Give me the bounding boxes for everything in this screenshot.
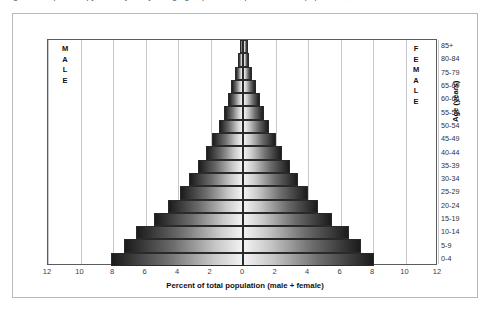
bar-male — [224, 106, 244, 119]
gridline — [438, 40, 439, 264]
x-tick-label: 10 — [393, 267, 417, 276]
x-tick-label: 6 — [133, 267, 157, 276]
bar-row — [48, 80, 436, 93]
female-label: FEMALE — [410, 44, 422, 107]
bar-female — [243, 80, 256, 93]
x-tick-label: 2 — [198, 267, 222, 276]
y-tick-label: 35-39 — [441, 161, 481, 170]
bar-male — [180, 186, 243, 199]
bar-male — [235, 67, 243, 80]
x-tick-label: 6 — [328, 267, 352, 276]
y-tick-label: 55-59 — [441, 108, 481, 117]
bar-row — [48, 120, 436, 133]
bar-male — [206, 146, 243, 159]
bar-female — [243, 173, 298, 186]
caption-letter: A — [59, 55, 71, 66]
pyramid-bars — [48, 40, 436, 264]
y-tick-label: 75-79 — [441, 68, 481, 77]
bar-row — [48, 239, 436, 252]
bar-male — [111, 253, 243, 266]
bar-row — [48, 133, 436, 146]
bar-female — [243, 67, 252, 80]
x-tick-label: 4 — [165, 267, 189, 276]
x-tick-label: 12 — [425, 267, 449, 276]
y-tick-label: 85+ — [441, 41, 481, 50]
bar-row — [48, 213, 436, 226]
bar-male — [189, 173, 243, 186]
bar-row — [48, 53, 436, 66]
bar-female — [243, 226, 349, 239]
x-tick-label: 4 — [295, 267, 319, 276]
caption-letter: L — [59, 65, 71, 76]
x-tick-label: 12 — [35, 267, 59, 276]
bar-female — [243, 106, 264, 119]
caption-letter: L — [410, 86, 422, 97]
bar-male — [168, 200, 243, 213]
bar-male — [228, 93, 243, 106]
y-tick-label: 80-84 — [441, 54, 481, 63]
bar-female — [243, 253, 374, 266]
y-tick-label: 10-14 — [441, 227, 481, 236]
x-tick-label: 8 — [100, 267, 124, 276]
bar-male — [198, 160, 244, 173]
bar-female — [243, 200, 318, 213]
bar-female — [243, 133, 276, 146]
bar-female — [243, 239, 361, 252]
bar-row — [48, 253, 436, 266]
bar-female — [243, 120, 269, 133]
bar-male — [231, 80, 243, 93]
bar-row — [48, 106, 436, 119]
caption-letter: E — [410, 55, 422, 66]
bar-row — [48, 146, 436, 159]
top-caption: Figure 1. Population pyramid by five-yea… — [6, 0, 486, 3]
y-tick-label: 60-64 — [441, 94, 481, 103]
x-tick-label: 2 — [263, 267, 287, 276]
plot-area — [47, 39, 437, 265]
y-tick-label: 25-29 — [441, 187, 481, 196]
bar-row — [48, 186, 436, 199]
y-tick-label: 50-54 — [441, 121, 481, 130]
x-tick-label: 0 — [230, 267, 254, 276]
bar-row — [48, 93, 436, 106]
bar-row — [48, 226, 436, 239]
bar-row — [48, 160, 436, 173]
x-axis-title: Percent of total population (male + fema… — [13, 281, 477, 290]
bar-row — [48, 67, 436, 80]
bar-female — [243, 213, 332, 226]
y-tick-label: 45-49 — [441, 134, 481, 143]
bar-male — [124, 239, 243, 252]
bar-male — [154, 213, 243, 226]
caption-letter: F — [410, 44, 422, 55]
y-tick-label: 20-24 — [441, 201, 481, 210]
caption-letter: E — [59, 76, 71, 87]
bar-male — [219, 120, 243, 133]
y-tick-label: 15-19 — [441, 214, 481, 223]
bar-male — [136, 226, 243, 239]
bar-female — [243, 40, 248, 53]
bar-female — [243, 186, 308, 199]
x-tick-label: 10 — [68, 267, 92, 276]
y-tick-label: 0-4 — [441, 254, 481, 263]
bar-row — [48, 173, 436, 186]
y-tick-label: 5-9 — [441, 241, 481, 250]
x-tick-label: 8 — [360, 267, 384, 276]
caption-letter: E — [410, 97, 422, 108]
bar-female — [243, 160, 290, 173]
y-tick-label: 30-34 — [441, 174, 481, 183]
caption-letter: A — [410, 76, 422, 87]
y-tick-label: 40-44 — [441, 148, 481, 157]
caption-letter: M — [410, 65, 422, 76]
bar-female — [243, 146, 282, 159]
bar-row — [48, 40, 436, 53]
bar-female — [243, 93, 260, 106]
y-tick-label: 65-69 — [441, 81, 481, 90]
y-axis-title: Age (years) — [451, 81, 460, 122]
male-label: MALE — [59, 44, 71, 86]
caption-letter: M — [59, 44, 71, 55]
figure-frame: MALE FEMALE 12108642024681012 Percent of… — [12, 13, 478, 298]
bar-row — [48, 200, 436, 213]
bar-male — [212, 133, 243, 146]
bar-female — [243, 53, 249, 66]
